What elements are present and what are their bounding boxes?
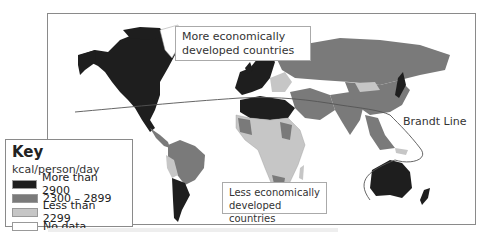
region-middle-east xyxy=(290,88,335,120)
swatch-high xyxy=(12,180,37,189)
region-north-america xyxy=(80,30,175,132)
brandt-line-label: Brandt Line xyxy=(403,115,467,128)
region-indonesia-light xyxy=(395,148,408,155)
region-north-africa xyxy=(240,96,295,120)
ldc-label-line1: Less economically xyxy=(229,186,320,199)
map-key: Key kcal/person/day More than 2900 2300 … xyxy=(5,139,133,227)
swatch-mid xyxy=(12,194,38,203)
region-eastern-europe xyxy=(270,72,292,92)
mdc-label-line1: More economically xyxy=(182,30,304,44)
key-title: Key xyxy=(12,143,126,161)
region-australia xyxy=(370,160,412,198)
ldc-label: Less economically developed countries xyxy=(222,182,327,214)
bottom-shadow-strip xyxy=(48,228,338,232)
mdc-label: More economically developed countries xyxy=(175,26,311,61)
region-alaska xyxy=(78,50,96,75)
region-new-zealand xyxy=(420,188,430,205)
region-south-america-south xyxy=(172,178,190,222)
region-central-america xyxy=(150,128,170,148)
mdc-label-line2: developed countries xyxy=(182,44,304,58)
swatch-none xyxy=(12,222,38,231)
swatch-low xyxy=(12,208,38,217)
ldc-label-line2: developed countries xyxy=(229,199,320,225)
region-madagascar xyxy=(299,165,304,180)
region-southeast-asia xyxy=(365,115,395,150)
key-item-low: Less than 2299 xyxy=(12,205,126,219)
key-item-high: More than 2900 xyxy=(12,177,126,191)
